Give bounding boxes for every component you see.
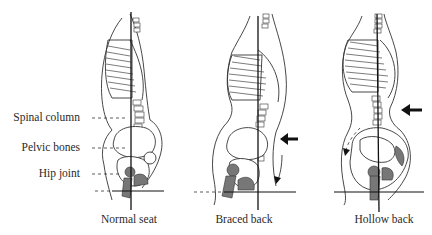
figure-hollow-back <box>334 14 424 212</box>
rib-cage <box>228 50 279 102</box>
tilt-arrow-icon <box>274 155 282 184</box>
figure-braced-back <box>194 14 298 210</box>
push-arrow-icon <box>401 104 422 116</box>
rib-cage <box>105 40 143 100</box>
label-hip-joint: Hip joint <box>39 167 80 179</box>
figure-normal-seat <box>92 12 164 210</box>
pelvis <box>113 127 156 199</box>
pelvis <box>222 128 268 198</box>
caption-hollow-back: Hollow back <box>334 213 432 225</box>
caption-normal-seat: Normal seat <box>79 213 179 225</box>
label-spinal-column: Spinal column <box>13 111 80 123</box>
caption-braced-back: Braced back <box>194 213 294 225</box>
push-arrow-icon <box>280 133 298 145</box>
spine <box>133 18 144 129</box>
rib-cage <box>343 40 395 98</box>
label-pelvic-bones: Pelvic bones <box>22 141 80 153</box>
